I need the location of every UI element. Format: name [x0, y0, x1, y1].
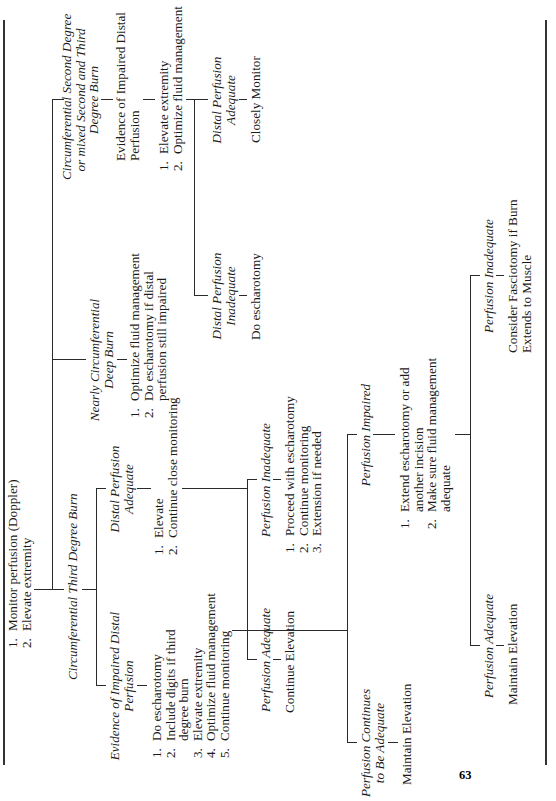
action-line: Extends to Muscle	[520, 200, 534, 353]
connector	[273, 659, 281, 660]
connector	[137, 488, 151, 489]
connector	[496, 645, 504, 646]
connector	[101, 99, 113, 100]
title-line: Adequate	[224, 40, 238, 160]
connector	[96, 685, 106, 686]
distal-adequate-steps: 1.Elevate 2.Continue close monitoring	[152, 397, 179, 555]
connector	[239, 295, 247, 296]
impaired-distal-title: Evidence of Impaired Distal Perfusion	[108, 606, 135, 766]
impaired-title-line: Evidence of Impaired Distal	[108, 606, 122, 766]
connector	[194, 295, 208, 296]
connector	[186, 99, 194, 100]
step: Optimize fluid management	[170, 6, 185, 154]
title-line: Degree Burn	[87, 20, 101, 180]
split-bracket	[347, 435, 348, 743]
third-degree-title: Circumferential Third Degree Burn	[66, 500, 80, 680]
connector	[117, 359, 127, 360]
trunk-line	[52, 100, 53, 590]
final-inadequate-title: Perfusion Inadequate	[482, 211, 496, 341]
connector	[52, 359, 64, 360]
connector	[34, 589, 52, 590]
mixed-evidence: Evidence of Impaired Distal Perfusion	[114, 12, 141, 161]
connector	[247, 659, 257, 660]
root-step-2: Elevate extremity	[19, 538, 34, 631]
perf-adequate-title: Perfusion Adequate	[259, 600, 273, 720]
connector	[388, 742, 398, 743]
connector	[143, 99, 155, 100]
mixed-burn-title: Circumferential Second Degree or mixed S…	[60, 20, 101, 180]
mixed-inadequate-title: Distal Perfusion Inadequate	[210, 236, 237, 356]
title-line: Perfusion Continues	[359, 683, 373, 801]
connector	[96, 488, 106, 489]
mixed-adequate-title: Distal Perfusion Adequate	[210, 40, 237, 160]
split-bracket	[470, 276, 471, 646]
perf-inadequate-steps: 1.Proceed with escharotomy 2.Continue mo…	[283, 396, 324, 553]
distal-adequate-title: Distal Perfusion Adequate	[108, 429, 135, 549]
continues-adequate-title: Perfusion Continues to Be Adequate	[359, 683, 386, 801]
nearly-steps: 1.Optimize fluid management 2.Do escharo…	[128, 253, 169, 418]
step: Continue close monitoring	[165, 397, 180, 538]
connector	[194, 99, 208, 100]
nearly-circumferential-title: Nearly Circumferential Deep Burn	[88, 290, 115, 430]
split-bracket	[194, 100, 195, 296]
title-line: Inadequate	[224, 236, 238, 356]
page-number: 63	[459, 768, 472, 783]
perfusion-impaired-title: Perfusion Impaired	[359, 375, 373, 495]
step: adequate	[438, 465, 453, 512]
page-border-top	[3, 20, 5, 765]
continue-elevation: Continue Elevation	[283, 611, 297, 713]
perf-inadequate-title: Perfusion Inadequate	[259, 415, 273, 545]
connector	[64, 359, 86, 360]
title-line: or mixed Second and Third	[74, 20, 88, 180]
step: Continue monitoring	[217, 631, 232, 741]
title-line: Deep Burn	[102, 290, 116, 430]
title-line: Adequate	[122, 429, 136, 549]
evidence-line: Evidence of Impaired Distal	[114, 12, 128, 161]
evidence-line: Perfusion	[128, 12, 142, 161]
connector	[347, 434, 357, 435]
title-line: Distal Perfusion	[210, 236, 224, 356]
connector	[496, 275, 504, 276]
page-border-bottom	[545, 20, 547, 765]
connector	[182, 488, 247, 489]
final-adequate-title: Perfusion Adequate	[482, 586, 496, 706]
connector	[470, 645, 480, 646]
title-line: Distal Perfusion	[210, 40, 224, 160]
mixed-steps: 1.Elevate extremity 2.Optimize fluid man…	[157, 6, 184, 171]
split-bracket	[247, 480, 248, 660]
connector	[373, 434, 395, 435]
title-line: Nearly Circumferential	[88, 290, 102, 430]
connector	[470, 275, 480, 276]
split-bracket	[96, 489, 97, 686]
do-escharotomy: Do escharotomy	[249, 253, 263, 340]
root-node: 1.Monitor perfusion (Doppler) 2.Elevate …	[6, 479, 33, 648]
perfusion-impaired-steps: 1.Extend escharotomy or add another inci…	[398, 358, 452, 529]
title-line: Circumferential Second Degree	[60, 20, 74, 180]
final-maintain-elevation: Maintain Elevation	[506, 604, 520, 705]
connector	[455, 434, 470, 435]
connector	[247, 479, 257, 480]
consider-fasciotomy: Consider Fasciotomy if Burn Extends to M…	[506, 200, 533, 353]
connector	[273, 479, 281, 480]
title-line: to Be Adequate	[373, 683, 387, 801]
closely-monitor: Closely Monitor	[249, 56, 263, 143]
impaired-steps: 1.Do escharotomy 2.Include digits if thi…	[150, 593, 231, 758]
connector	[137, 685, 147, 686]
connector	[347, 742, 357, 743]
connector	[82, 589, 96, 590]
maintain-elevation: Maintain Elevation	[400, 684, 414, 785]
connector	[239, 99, 247, 100]
step: perfusion still impaired	[154, 278, 169, 401]
connector	[52, 589, 64, 590]
action-line: Consider Fasciotomy if Burn	[506, 200, 520, 353]
title-line: Distal Perfusion	[108, 429, 122, 549]
step: Extension if needed	[309, 431, 324, 536]
impaired-title-line: Perfusion	[122, 606, 136, 766]
